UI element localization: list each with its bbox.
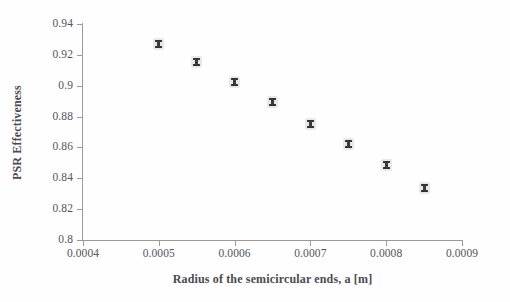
y-axis-title: PSR Effectiveness — [6, 52, 28, 212]
data-point-marker[interactable] — [345, 140, 352, 148]
data-point-marker[interactable] — [155, 40, 162, 48]
y-tick-label-text: 0.88 — [52, 111, 73, 123]
y-tick-label: 0.82 — [0, 203, 73, 215]
y-tick-mark — [77, 147, 82, 148]
data-point-marker[interactable] — [231, 78, 238, 86]
y-tick-mark — [77, 240, 82, 241]
x-tick-label: 0.0004 — [48, 248, 118, 260]
x-tick-mark — [235, 241, 236, 246]
x-tick-mark — [386, 241, 387, 246]
y-tick-label-text: 0.86 — [52, 141, 73, 153]
y-tick-label: 0.94 — [0, 18, 73, 30]
data-point-stem — [271, 99, 274, 105]
data-point-stem — [423, 185, 426, 191]
data-point-marker[interactable] — [193, 58, 200, 66]
y-tick-label: 0.86 — [0, 141, 73, 153]
y-tick-mark — [77, 178, 82, 179]
y-tick-label: 0.8 — [0, 234, 73, 246]
y-tick-label-text: 0.92 — [52, 49, 73, 61]
y-tick-mark — [77, 24, 82, 25]
data-point-stem — [347, 141, 350, 147]
y-tick-label: 0.88 — [0, 111, 73, 123]
y-tick-label-text: 0.82 — [52, 203, 73, 215]
x-tick-mark — [462, 241, 463, 246]
chart-figure: PSR Effectiveness 0.80.820.840.860.880.9… — [0, 0, 510, 302]
data-point-marker[interactable] — [269, 98, 276, 106]
y-tick-mark — [77, 86, 82, 87]
x-tick-mark — [159, 241, 160, 246]
y-tick-label: 0.92 — [0, 49, 73, 61]
data-point-stem — [233, 79, 236, 85]
plot-area — [83, 24, 462, 240]
x-tick-label: 0.0007 — [275, 248, 345, 260]
data-point-stem — [309, 121, 312, 127]
data-point-marker[interactable] — [383, 161, 390, 169]
data-point-marker[interactable] — [307, 120, 314, 128]
x-tick-label: 0.0005 — [124, 248, 194, 260]
y-tick-label: 0.84 — [0, 172, 73, 184]
x-tick-label: 0.0009 — [427, 248, 497, 260]
x-tick-label: 0.0006 — [200, 248, 270, 260]
y-axis-title-text: PSR Effectiveness — [10, 85, 25, 180]
y-tick-mark — [77, 117, 82, 118]
x-axis-line — [82, 240, 463, 241]
x-tick-mark — [83, 241, 84, 246]
x-tick-label: 0.0008 — [351, 248, 421, 260]
x-axis-title: Radius of the semicircular ends, a [m] — [83, 272, 462, 287]
y-tick-label-text: 0.84 — [52, 172, 73, 184]
x-tick-mark — [310, 241, 311, 246]
data-point-stem — [157, 41, 160, 47]
y-tick-mark — [77, 55, 82, 56]
data-point-stem — [195, 59, 198, 65]
y-tick-label-text: 0.9 — [58, 80, 73, 92]
y-tick-mark — [77, 209, 82, 210]
y-tick-label-text: 0.94 — [52, 18, 73, 30]
y-tick-label-text: 0.8 — [58, 234, 73, 246]
data-point-stem — [385, 162, 388, 168]
data-point-marker[interactable] — [421, 184, 428, 192]
y-tick-label: 0.9 — [0, 80, 73, 92]
